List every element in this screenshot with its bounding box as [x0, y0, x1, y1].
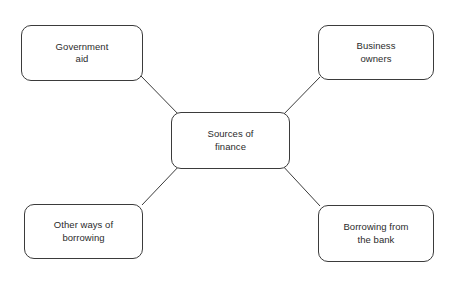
connector-center-to-other-ways — [142, 164, 181, 205]
node-label: Government aid — [56, 41, 109, 66]
node-sources-of-finance[interactable]: Sources of finance — [171, 112, 290, 169]
node-label: Borrowing from the bank — [343, 221, 408, 246]
node-other-ways-of-borrowing[interactable]: Other ways of borrowing — [24, 204, 143, 259]
connector-center-to-borrowing-bank — [281, 164, 320, 206]
node-label: Other ways of borrowing — [54, 219, 113, 244]
node-borrowing-from-the-bank[interactable]: Borrowing from the bank — [318, 205, 434, 262]
node-government-aid[interactable]: Government aid — [21, 25, 143, 81]
node-business-owners[interactable]: Business owners — [318, 25, 434, 80]
node-label: Sources of finance — [208, 128, 254, 153]
node-label: Business owners — [357, 40, 396, 65]
diagram-canvas: Government aid Business owners Sources o… — [0, 0, 457, 282]
connector-center-to-business-owners — [281, 77, 320, 117]
connector-center-to-government-aid — [141, 76, 181, 117]
